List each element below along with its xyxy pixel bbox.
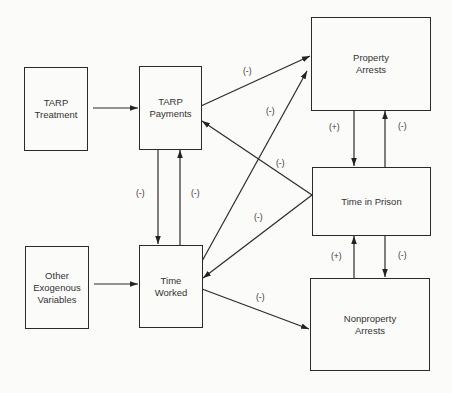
sign-prison-to-nonproperty: (-) — [398, 250, 407, 260]
node-time-worked: Time Worked — [139, 245, 203, 328]
node-label-line: TARP — [44, 97, 69, 109]
node-nonproperty-arrests: Nonproperty Arrests — [310, 278, 430, 371]
node-label-line: Nonproperty — [344, 313, 396, 325]
sign-payments-to-property: (-) — [243, 66, 252, 76]
sign-worked-to-property: (-) — [266, 106, 275, 116]
edge-payments-to-property-arrests — [201, 56, 310, 106]
node-label-line: Variables — [38, 294, 77, 306]
causal-diagram: TARP Treatment TARP Payments Property Ar… — [0, 0, 452, 393]
node-label-line: Time in Prison — [341, 196, 401, 208]
node-other-exogenous-variables: Other Exogenous Variables — [25, 246, 89, 329]
edge-time-worked-to-property-arrests — [201, 71, 307, 263]
node-property-arrests: Property Arrests — [311, 17, 431, 111]
node-label-line: Worked — [155, 287, 188, 299]
sign-prison-to-property: (-) — [398, 121, 407, 131]
node-label-line: Property — [353, 52, 389, 64]
node-label-line: Arrests — [355, 325, 385, 337]
node-label-line: Payments — [149, 108, 191, 120]
node-time-in-prison: Time in Prison — [312, 167, 431, 236]
sign-property-to-prison: (+) — [329, 122, 340, 132]
node-label-line: Arrests — [356, 64, 386, 76]
node-tarp-payments: TARP Payments — [139, 66, 202, 150]
node-label-line: Treatment — [35, 109, 78, 121]
node-label-line: TARP — [158, 96, 183, 108]
sign-worked-to-nonproperty: (-) — [256, 292, 265, 302]
node-label-line: Other — [45, 270, 69, 282]
node-label-line: Time — [161, 275, 182, 287]
sign-prison-to-worked: (-) — [254, 212, 263, 222]
node-label-line: Exogenous — [33, 282, 81, 294]
sign-prison-to-payments: (-) — [276, 158, 285, 168]
sign-payments-to-worked: (-) — [136, 188, 145, 198]
edge-prison-to-time-worked — [203, 195, 312, 278]
sign-nonproperty-to-prison: (+) — [331, 251, 342, 261]
edge-prison-to-payments — [202, 121, 312, 195]
sign-worked-to-payments: (-) — [191, 188, 200, 198]
node-tarp-treatment: TARP Treatment — [24, 67, 88, 151]
